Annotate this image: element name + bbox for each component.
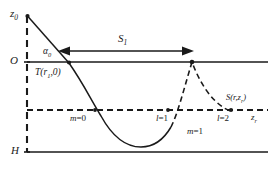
ray-path-solid — [69, 63, 171, 147]
node-label-l1: l=1 — [156, 114, 168, 123]
ray-path-diagram: z0 O α0 T(r1,0) S1 H m=0 l=1 m=1 l=2 S(r… — [0, 0, 277, 169]
cycle-distance-label: S1 — [118, 33, 127, 47]
launch-angle-label: α0 — [43, 47, 51, 58]
marker-receiver — [229, 108, 233, 112]
marker-apex — [190, 60, 195, 65]
marker-source-depth — [25, 14, 29, 18]
cycle-distance-arrow — [58, 47, 194, 56]
bottom-depth-label: H — [11, 145, 19, 156]
marker-node-m0 — [93, 108, 97, 112]
node-label-l2: l=2 — [217, 114, 229, 123]
receiver-point-label: S(r,zr) — [226, 93, 246, 104]
touch-point-label: T(r1,0) — [35, 68, 61, 79]
node-label-m1: m=1 — [187, 127, 203, 136]
diagram-canvas — [0, 0, 277, 169]
range-axis-label: zr — [251, 113, 257, 124]
source-depth-label: z0 — [10, 8, 18, 22]
origin-label: O — [10, 55, 18, 66]
marker-touch-point — [67, 60, 71, 64]
node-label-m0: m=0 — [70, 114, 86, 123]
marker-node-l1 — [166, 108, 170, 112]
